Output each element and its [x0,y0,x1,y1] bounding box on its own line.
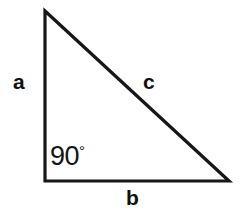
triangle-shape-icon [0,0,242,215]
right-angle-value: 90 [50,141,79,171]
right-angle-label: 90° [50,143,85,170]
right-triangle-figure: a c b 90° [0,0,242,215]
side-label-b: b [126,187,139,208]
side-label-c: c [143,71,155,92]
side-label-a: a [13,71,25,92]
degree-symbol-icon: ° [79,142,85,159]
